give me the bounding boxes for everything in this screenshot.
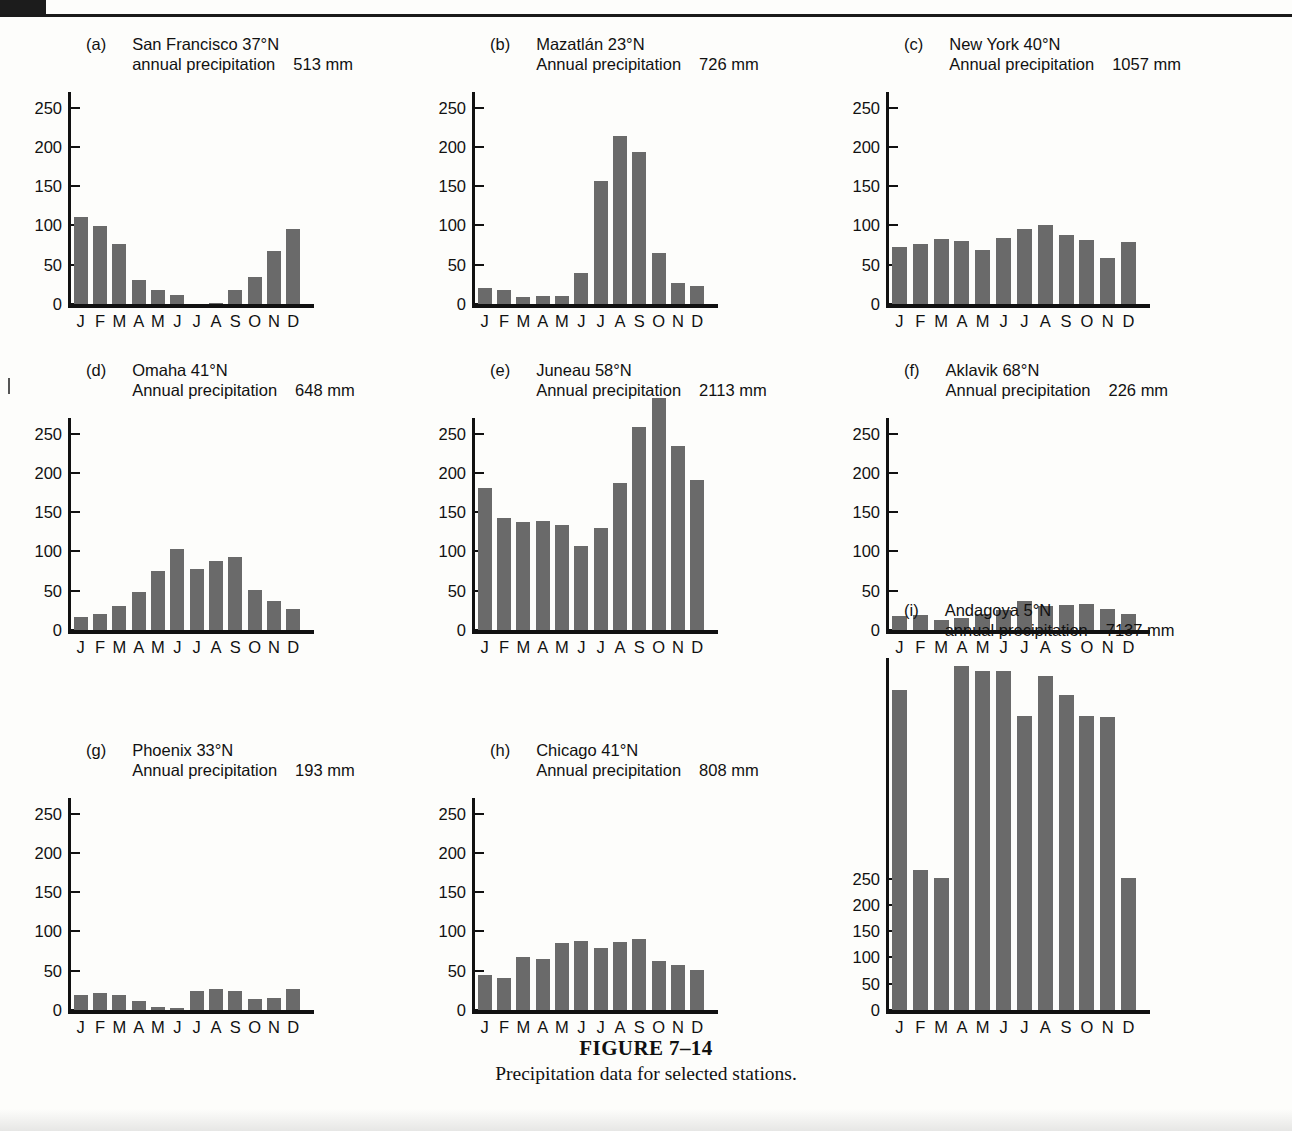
bar-b-S — [632, 152, 646, 304]
x-axis-labels-a: JFMAMJJASOND — [71, 312, 303, 331]
x-tick-label-i-2: M — [931, 1018, 952, 1037]
y-tick-label-e-0: 0 — [457, 621, 466, 640]
x-tick-label-f-8: S — [1056, 638, 1077, 657]
bar-slot — [71, 798, 90, 1010]
bar-c-J — [1017, 229, 1032, 304]
y-tick-label-i-100: 100 — [852, 948, 880, 967]
y-tick-label-b-50: 50 — [448, 255, 466, 274]
x-tick-label-e-10: N — [668, 638, 687, 657]
bar-c-S — [1059, 235, 1074, 304]
x-tick-label-e-1: F — [494, 638, 513, 657]
bar-slot — [494, 798, 513, 1010]
bar-slot — [649, 418, 668, 630]
annual-precipitation-row-g: Annual precipitation193 mm — [132, 760, 355, 780]
panel-letter-a: (a) — [86, 34, 106, 54]
station-name-c: New York 40°N — [949, 34, 1181, 54]
bar-slot — [187, 92, 206, 304]
x-tick-label-b-4: M — [552, 312, 571, 331]
x-tick-label-c-5: J — [993, 312, 1014, 331]
y-tick-label-h-150: 150 — [438, 883, 466, 902]
bar-slot — [668, 92, 687, 304]
bar-slot — [533, 418, 552, 630]
y-tick-label-a-150: 150 — [34, 177, 62, 196]
bar-slot — [1014, 92, 1035, 304]
x-tick-label-h-11: D — [688, 1018, 707, 1037]
x-axis-labels-f: JFMAMJJASOND — [889, 638, 1139, 657]
panel-letter-c: (c) — [904, 34, 923, 54]
bar-slot — [475, 798, 494, 1010]
y-tick-label-c-150: 150 — [852, 177, 880, 196]
bar-slot — [264, 418, 283, 630]
bar-c-J — [892, 247, 907, 304]
bar-slot — [668, 798, 687, 1010]
bar-slot — [889, 658, 910, 1010]
bar-slot — [206, 418, 225, 630]
page-top-rule — [0, 14, 1292, 17]
panel-titles-f: Aklavik 68°NAnnual precipitation226 mm — [946, 360, 1169, 400]
bar-d-F — [93, 614, 107, 630]
panel-letter-g: (g) — [86, 740, 106, 760]
x-tick-label-e-6: J — [591, 638, 610, 657]
bar-b-J — [478, 288, 492, 304]
y-tick-label-a-250: 250 — [34, 98, 62, 117]
annual-precipitation-label-g: Annual precipitation — [132, 761, 277, 779]
x-tick-label-d-7: A — [206, 638, 225, 657]
bar-slot — [475, 418, 494, 630]
x-tick-label-c-10: N — [1097, 312, 1118, 331]
bar-g-F — [93, 993, 107, 1010]
x-tick-label-h-4: M — [552, 1018, 571, 1037]
bar-h-M — [555, 943, 569, 1010]
bar-i-O — [1079, 716, 1094, 1010]
bar-e-M — [555, 525, 569, 630]
x-tick-label-a-3: A — [129, 312, 148, 331]
y-axis-labels-d: 050100150200250 — [28, 418, 62, 630]
y-tick-label-i-0: 0 — [871, 1001, 880, 1020]
bar-e-A — [613, 483, 627, 630]
bar-h-A — [613, 942, 627, 1010]
panel-letter-b: (b) — [490, 34, 510, 54]
bar-slot — [245, 92, 264, 304]
bar-g-J — [190, 991, 204, 1010]
bar-a-J — [170, 295, 184, 304]
y-tick-label-d-50: 50 — [44, 581, 62, 600]
bar-slot — [552, 92, 571, 304]
y-tick-label-c-250: 250 — [852, 98, 880, 117]
bar-slot — [187, 418, 206, 630]
bar-b-A — [536, 296, 550, 304]
x-tick-label-i-4: M — [972, 1018, 993, 1037]
bar-slot — [475, 92, 494, 304]
bar-series-i — [889, 658, 1139, 1010]
bar-slot — [494, 92, 513, 304]
x-tick-label-d-3: A — [129, 638, 148, 657]
bar-i-D — [1121, 878, 1136, 1010]
x-tick-label-i-1: F — [910, 1018, 931, 1037]
bar-series-a — [71, 92, 303, 304]
bar-e-O — [652, 398, 666, 630]
bar-g-N — [267, 998, 281, 1010]
bar-a-O — [248, 277, 262, 304]
figure-caption: FIGURE 7–14 Precipitation data for selec… — [0, 1036, 1292, 1085]
y-tick-label-h-50: 50 — [448, 961, 466, 980]
x-tick-label-e-8: S — [630, 638, 649, 657]
x-tick-label-i-9: O — [1076, 1018, 1097, 1037]
x-axis-line-a — [68, 304, 314, 308]
x-tick-label-c-0: J — [889, 312, 910, 331]
x-tick-label-h-0: J — [475, 1018, 494, 1037]
bar-c-M — [975, 250, 990, 304]
x-tick-label-e-4: M — [552, 638, 571, 657]
station-name-g: Phoenix 33°N — [132, 740, 355, 760]
bar-d-J — [74, 617, 88, 630]
bar-a-A — [132, 280, 146, 304]
bar-slot — [129, 418, 148, 630]
bar-slot — [931, 92, 952, 304]
bar-h-F — [497, 978, 511, 1010]
station-name-f: Aklavik 68°N — [946, 360, 1169, 380]
bar-b-M — [555, 296, 569, 304]
x-tick-label-g-4: M — [148, 1018, 167, 1037]
bar-slot — [610, 798, 629, 1010]
x-tick-label-d-6: J — [187, 638, 206, 657]
bar-slot — [552, 798, 571, 1010]
bar-i-J — [892, 690, 907, 1010]
station-name-d: Omaha 41°N — [132, 360, 355, 380]
bar-a-J — [74, 217, 88, 304]
